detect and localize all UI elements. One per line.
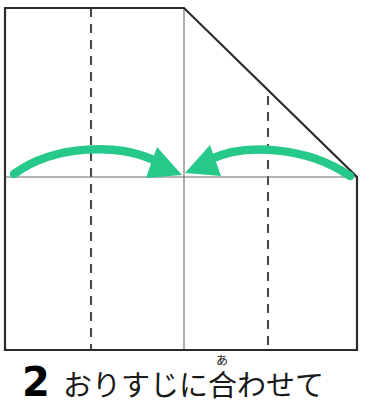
caption-furigana: あ (216, 355, 228, 367)
caption-ruby-base: 合 (208, 369, 237, 402)
origami-diagram (0, 0, 371, 362)
step-caption-text: おりすじにあ合わせて (63, 370, 324, 402)
step-number: 2 (22, 362, 49, 402)
step-caption-row: 2 おりすじにあ合わせて (0, 358, 371, 402)
paper-shape (5, 8, 357, 350)
caption-text-before: おりすじに (63, 369, 208, 402)
origami-instruction-page: 2 おりすじにあ合わせて (0, 0, 371, 402)
caption-text-after: わせて (237, 369, 324, 402)
caption-ruby-group: あ合 (208, 370, 237, 402)
